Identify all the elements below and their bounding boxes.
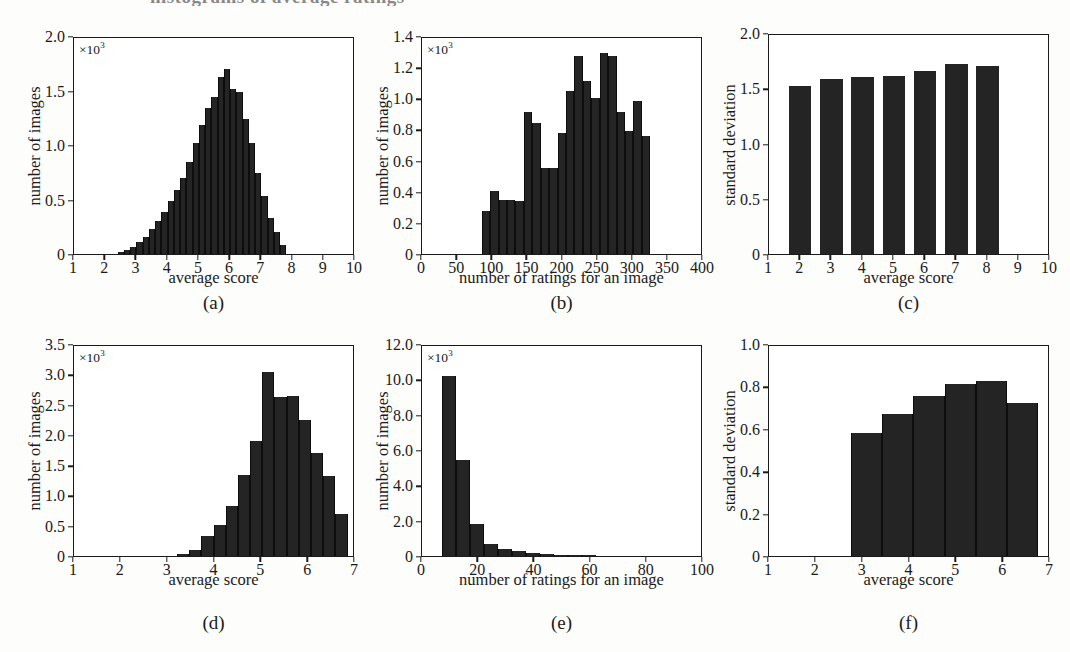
y-tick-label: 0.6 <box>393 153 413 171</box>
x-tick-mark <box>213 557 214 562</box>
y-tick-mark <box>763 344 768 345</box>
y-tick-label: 8.0 <box>393 407 413 425</box>
plot-area-b: ×103 <box>421 37 702 255</box>
y-tick-mark <box>416 161 421 162</box>
x-tick-mark <box>420 255 421 260</box>
plot-area-c <box>768 34 1049 255</box>
y-tick-label: 0 <box>752 548 760 566</box>
x-axis-title-c: average score <box>768 268 1049 288</box>
y-tick-mark <box>416 415 421 416</box>
y-tick-label: 0 <box>752 246 760 264</box>
plot-area-f <box>768 345 1049 557</box>
x-tick-mark <box>589 557 590 562</box>
y-tick-label: 3.5 <box>45 336 65 354</box>
bar <box>456 460 470 556</box>
bar <box>642 136 650 254</box>
figure-grid: histograms of average ratings ×10300.51.… <box>0 0 1070 652</box>
x-tick-mark <box>119 557 120 562</box>
x-tick-mark <box>701 255 702 260</box>
x-tick-mark <box>645 557 646 562</box>
bar <box>484 544 498 556</box>
bar <box>515 201 523 254</box>
exponent-base: ×10 <box>427 42 448 57</box>
x-tick-mark <box>72 557 73 562</box>
plot-area-e: ×103 <box>421 345 702 557</box>
bar <box>280 245 286 254</box>
y-tick-mark <box>416 99 421 100</box>
y-tick-mark <box>68 200 73 201</box>
x-axis-title-f: average score <box>768 570 1049 590</box>
x-tick-mark <box>892 255 893 260</box>
y-tick-mark <box>68 344 73 345</box>
x-tick-mark <box>197 255 198 260</box>
bar <box>299 420 311 556</box>
x-tick-mark <box>420 557 421 562</box>
y-axis-title-b: number of images <box>372 86 392 205</box>
y-axis-title-c: standard deviation <box>719 84 739 205</box>
x-axis-title-e: number of ratings for an image <box>421 570 702 590</box>
y-tick-mark <box>68 496 73 497</box>
y-tick-label: 4.0 <box>393 477 413 495</box>
y-tick-mark <box>68 465 73 466</box>
y-tick-mark <box>68 435 73 436</box>
y-tick-label: 1.5 <box>45 83 65 101</box>
y-axis-exponent-a: ×103 <box>79 40 105 58</box>
y-tick-label: 0 <box>57 548 65 566</box>
y-tick-label: 1.0 <box>393 90 413 108</box>
x-tick-mark <box>1001 557 1002 562</box>
x-tick-mark <box>923 255 924 260</box>
x-tick-mark <box>986 255 987 260</box>
bar <box>554 555 568 556</box>
bar <box>558 133 566 254</box>
y-tick-label: 2.0 <box>393 513 413 531</box>
y-tick-mark <box>416 67 421 68</box>
y-tick-mark <box>68 405 73 406</box>
bar <box>498 549 512 556</box>
bar <box>944 64 968 254</box>
x-tick-mark <box>799 255 800 260</box>
y-tick-mark <box>416 130 421 131</box>
bar <box>238 475 250 556</box>
y-tick-label: 0.6 <box>740 421 760 439</box>
bar <box>819 79 843 254</box>
y-tick-mark <box>416 380 421 381</box>
bar <box>625 131 633 254</box>
panel-caption-f: (f) <box>768 612 1049 634</box>
y-axis-title-e: number of images <box>372 391 392 510</box>
x-tick-mark <box>955 255 956 260</box>
y-tick-label: 0 <box>405 548 413 566</box>
y-tick-mark <box>763 33 768 34</box>
x-tick-mark <box>260 255 261 260</box>
y-tick-mark <box>416 521 421 522</box>
plot-area-a: ×103 <box>73 37 354 255</box>
y-axis-title-d: number of images <box>24 391 44 510</box>
x-tick-mark <box>1048 557 1049 562</box>
y-tick-mark <box>763 199 768 200</box>
y-tick-mark <box>68 145 73 146</box>
bar <box>532 123 540 254</box>
exponent-power: 3 <box>100 40 105 50</box>
bar <box>976 381 1007 556</box>
y-tick-mark <box>763 429 768 430</box>
y-tick-label: 1.2 <box>393 59 413 77</box>
bar <box>470 524 484 556</box>
panel-caption-e: (e) <box>421 612 702 634</box>
bar <box>945 384 976 556</box>
x-tick-mark <box>701 557 702 562</box>
bar <box>913 71 937 254</box>
bar <box>582 555 596 556</box>
bar <box>566 91 574 255</box>
y-axis-exponent-e: ×103 <box>427 348 453 366</box>
y-tick-label: 1.0 <box>45 487 65 505</box>
x-tick-mark <box>861 557 862 562</box>
bar <box>189 550 201 556</box>
x-tick-mark <box>291 255 292 260</box>
bar <box>633 101 641 254</box>
y-tick-label: 0.2 <box>740 506 760 524</box>
x-tick-mark <box>1048 255 1049 260</box>
y-tick-label: 0.5 <box>45 192 65 210</box>
bar <box>913 396 944 556</box>
y-tick-mark <box>416 486 421 487</box>
x-tick-mark <box>228 255 229 260</box>
y-tick-mark <box>416 450 421 451</box>
